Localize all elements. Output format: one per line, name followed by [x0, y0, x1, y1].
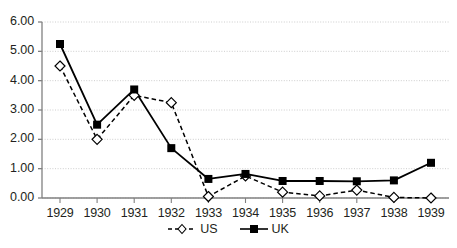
y-axis-tick-label: 4.00 — [0, 73, 34, 87]
data-point-uk-1929 — [56, 40, 64, 48]
data-point-uk-1935 — [279, 177, 287, 185]
legend-marker-us — [168, 223, 196, 235]
y-axis-tick-label: 2.00 — [0, 131, 34, 145]
data-point-us-1929 — [55, 61, 65, 71]
legend-item-us[interactable]: US — [168, 222, 217, 236]
legend-label-uk: UK — [272, 222, 289, 236]
series-line-uk — [60, 44, 431, 181]
data-point-uk-1930 — [93, 121, 101, 129]
data-point-us-1936 — [315, 191, 325, 201]
legend-label-us: US — [200, 222, 217, 236]
data-point-us-1938 — [389, 192, 399, 202]
y-axis-tick-label: 5.00 — [0, 43, 34, 57]
data-point-us-1933 — [203, 192, 213, 202]
data-point-us-1935 — [278, 187, 288, 197]
line-chart: 0.001.002.003.004.005.006.00 19291930193… — [0, 0, 457, 248]
x-axis-ticks — [60, 198, 431, 203]
y-axis-tick-label: 3.00 — [0, 102, 34, 116]
data-point-uk-1931 — [130, 85, 138, 93]
data-point-us-1939 — [426, 193, 436, 203]
data-point-uk-1932 — [167, 144, 175, 152]
legend-item-uk[interactable]: UK — [240, 222, 289, 236]
data-point-uk-1939 — [427, 159, 435, 167]
data-point-uk-1937 — [353, 177, 361, 185]
data-point-us-1937 — [352, 185, 362, 195]
data-point-us-1932 — [166, 98, 176, 108]
legend-marker-uk — [240, 223, 268, 235]
y-axis-tick-label: 1.00 — [0, 161, 34, 175]
data-point-uk-1938 — [390, 176, 398, 184]
data-point-uk-1934 — [242, 170, 250, 178]
data-point-uk-1936 — [316, 177, 324, 185]
data-point-us-1930 — [92, 134, 102, 144]
chart-legend: US UK — [0, 222, 457, 236]
x-axis-tick-label: 1939 — [407, 206, 455, 220]
y-axis-tick-label: 0.00 — [0, 190, 34, 204]
y-axis-tick-label: 6.00 — [0, 14, 34, 28]
data-point-uk-1933 — [204, 175, 212, 183]
